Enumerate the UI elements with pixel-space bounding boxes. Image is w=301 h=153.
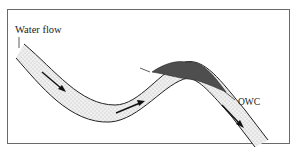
oil-cap-edge-tick bbox=[140, 68, 150, 72]
water-flow-label: Water flow bbox=[15, 25, 62, 36]
reservoir-layer bbox=[16, 44, 268, 147]
owc-label: OWC bbox=[238, 98, 260, 108]
hydrodynamic-trap-diagram bbox=[0, 0, 301, 153]
